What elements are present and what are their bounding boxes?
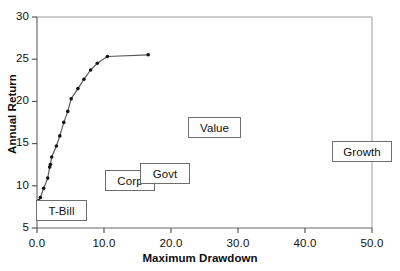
y-tick-label-10: 10 — [0, 179, 29, 191]
y-tick-label-5: 5 — [0, 221, 29, 233]
x-axis-ticks — [37, 228, 372, 233]
callout-growth[interactable]: Growth — [332, 141, 392, 162]
y-tick-label-30: 30 — [0, 10, 29, 22]
x-tick-label-40: 40.0 — [280, 237, 330, 249]
callout-govt[interactable]: Govt — [140, 163, 190, 184]
x-tick-label-0: 0.0 — [12, 237, 62, 249]
y-axis-ticks — [32, 17, 37, 228]
chart-container: 30 25 20 15 10 5 0.0 10.0 20.0 30.0 40.0… — [0, 0, 400, 271]
y-axis-title: Annual Return — [6, 64, 18, 164]
x-axis-title: Maximum Drawdown — [0, 252, 400, 264]
callout-value[interactable]: Value — [188, 117, 241, 138]
callout-t-bill[interactable]: T-Bill — [36, 200, 87, 221]
y-tick-label-25: 25 — [0, 52, 29, 64]
x-tick-label-20: 20.0 — [146, 237, 196, 249]
x-tick-label-50: 50.0 — [347, 237, 397, 249]
x-tick-label-30: 30.0 — [213, 237, 263, 249]
x-tick-label-10: 10.0 — [79, 237, 129, 249]
